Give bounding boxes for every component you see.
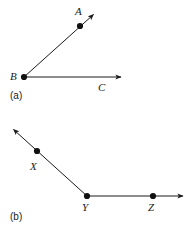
label-point-A: A	[75, 6, 82, 17]
ray-BA	[24, 15, 94, 78]
geometry-figure: A B C (a) X Y Z (b)	[0, 0, 195, 236]
geometry-canvas	[0, 0, 195, 236]
ray-YZ	[87, 193, 183, 199]
point-B-dot	[21, 74, 27, 80]
point-Y-dot	[84, 193, 90, 199]
label-point-Y: Y	[82, 202, 88, 213]
label-point-Z: Z	[148, 202, 154, 213]
point-Z-dot	[150, 193, 156, 199]
ray-YX	[14, 130, 88, 197]
label-point-C: C	[98, 82, 105, 93]
ray-YX-line	[14, 130, 88, 197]
caption-panel-b: (b)	[10, 212, 22, 222]
point-A-dot	[77, 23, 83, 29]
point-X-dot	[34, 148, 40, 154]
caption-panel-a: (a)	[10, 91, 22, 101]
label-point-X: X	[30, 161, 37, 172]
label-point-B: B	[10, 71, 17, 82]
ray-BA-line	[24, 15, 94, 78]
